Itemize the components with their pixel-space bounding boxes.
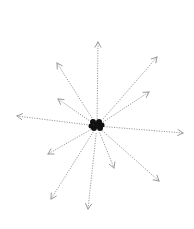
arrow-lower-right-short [100, 132, 115, 168]
arrow-shaft [51, 132, 93, 199]
arrow-shaft [97, 42, 98, 119]
arrow-left [17, 114, 90, 125]
arrow-lower-right-long [102, 131, 159, 181]
particle-dot [89, 124, 94, 129]
arrow-shaft [88, 133, 96, 209]
particle-dot [100, 123, 105, 128]
arrow-up [95, 42, 101, 119]
arrow-upper-right-long [102, 57, 157, 121]
radial-burst-diagram [0, 0, 194, 229]
arrow-lower-left-short [48, 129, 91, 154]
arrow-lower-left-long [51, 132, 93, 199]
particle-dot [94, 122, 100, 128]
arrow-shaft [102, 57, 157, 121]
arrow-down [86, 133, 97, 209]
arrowhead-icon [114, 162, 115, 168]
arrowhead-icon [109, 164, 114, 168]
arrow-upper-left-long [57, 63, 93, 120]
arrow-shaft [104, 127, 183, 133]
arrowhead-icon [178, 133, 183, 136]
arrowhead-icon [153, 180, 159, 181]
arrow-shaft [100, 132, 114, 168]
arrowhead-icon [88, 204, 92, 209]
arrow-shaft [48, 129, 91, 154]
arrow-shaft [17, 116, 90, 125]
arrow-shaft [102, 131, 159, 181]
arrow-upper-right-short [103, 92, 149, 122]
arrow-shaft [103, 92, 149, 122]
arrowhead-icon [157, 175, 159, 181]
arrow-shaft [58, 99, 91, 122]
arrow-right [104, 127, 183, 136]
arrow-upper-left-short [58, 99, 91, 122]
arrowhead-icon [86, 204, 88, 209]
arrowhead-icon [17, 114, 23, 116]
arrow-shaft [57, 63, 93, 120]
arrowhead-icon [58, 99, 61, 104]
